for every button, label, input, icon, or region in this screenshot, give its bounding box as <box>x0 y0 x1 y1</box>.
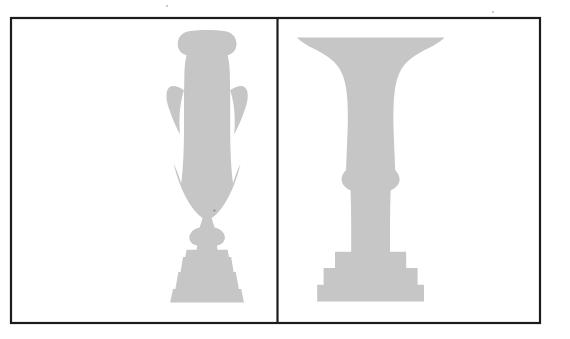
speck-mark-top-edge <box>166 5 168 7</box>
plate-canvas <box>0 0 570 339</box>
plate-background <box>0 0 570 339</box>
speck-mark-top-right <box>492 11 494 13</box>
speck-mark-left-panel <box>213 209 215 211</box>
vase-plate <box>0 0 570 339</box>
